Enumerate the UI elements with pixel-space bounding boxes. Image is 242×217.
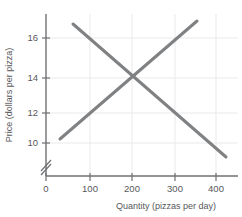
chart-svg: 16 14 12 10 0 100 200 300 400 Price (dol… xyxy=(0,0,242,217)
x-tick-label-300: 300 xyxy=(167,183,183,194)
gridlines xyxy=(46,14,238,176)
supply-demand-chart: 16 14 12 10 0 100 200 300 400 Price (dol… xyxy=(0,0,242,217)
x-tick-label-0: 0 xyxy=(43,183,48,194)
x-tick-label-100: 100 xyxy=(82,183,98,194)
y-tick-label-16: 16 xyxy=(27,32,38,43)
y-tick-label-10: 10 xyxy=(27,137,38,148)
x-tick-marks xyxy=(46,173,216,181)
x-tick-label-200: 200 xyxy=(124,183,140,194)
y-axis-title: Price (dollars per pizza) xyxy=(4,48,14,143)
x-axis-title: Quantity (pizzas per day) xyxy=(116,201,216,211)
x-tick-label-400: 400 xyxy=(208,183,224,194)
y-tick-label-12: 12 xyxy=(27,107,38,118)
y-tick-label-14: 14 xyxy=(27,72,38,83)
demand-curve xyxy=(73,24,226,157)
curves xyxy=(60,21,226,157)
supply-curve xyxy=(60,21,197,139)
